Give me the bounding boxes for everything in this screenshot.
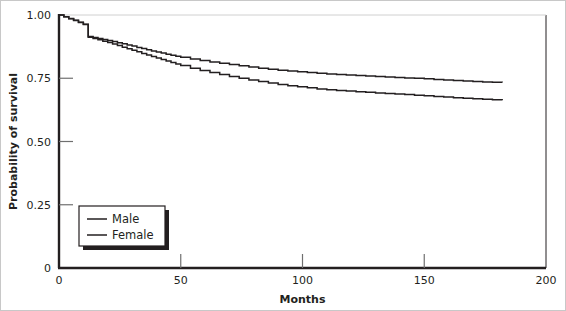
- y-tick-label: 0: [44, 262, 51, 275]
- x-axis-title: Months: [280, 293, 326, 306]
- y-tick-label: 0.50: [27, 136, 52, 149]
- chart-canvas: 00.250.500.751.00050100150200MonthsProba…: [1, 1, 566, 311]
- series-line-female: [59, 15, 502, 100]
- y-tick-label: 1.00: [27, 9, 52, 22]
- x-tick-label: 50: [174, 274, 188, 287]
- y-tick-label: 0.25: [27, 199, 52, 212]
- legend-label-male: Male: [112, 212, 139, 226]
- x-tick-label: 200: [536, 274, 557, 287]
- legend-label-female: Female: [112, 228, 154, 242]
- x-tick-label: 150: [414, 274, 435, 287]
- y-tick-label: 0.75: [27, 72, 52, 85]
- x-tick-label: 0: [56, 274, 63, 287]
- survival-chart-figure: 00.250.500.751.00050100150200MonthsProba…: [0, 0, 566, 311]
- x-tick-label: 100: [292, 274, 313, 287]
- series-line-male: [59, 15, 502, 83]
- y-axis-title: Probability of survival: [7, 73, 20, 210]
